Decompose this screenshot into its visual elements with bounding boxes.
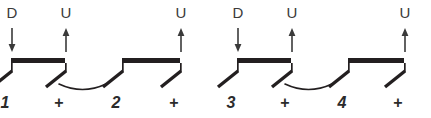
up-arrow [63,28,70,52]
beam [237,58,291,63]
strumming-pattern-figure: DUUDUU 1+2+3+4+ [0,0,431,118]
slash-note [385,63,405,87]
slash-note-group [0,63,405,87]
beam [348,58,404,63]
down-arrow [235,28,242,52]
slash-note [218,63,238,87]
slash-note [161,63,181,87]
stroke-label-down: D [7,4,18,21]
count-label-number: 2 [111,94,121,111]
slash-note [46,63,66,87]
count-label-number: 1 [1,94,10,111]
beam [11,58,65,63]
down-arrow [9,28,16,52]
slash-note [0,63,12,87]
tie-curve-group [59,84,332,90]
stroke-label-down: D [233,4,244,21]
count-label-and: + [280,94,289,111]
count-label-and: + [54,94,63,111]
stroke-arrow-group [9,28,409,52]
count-label-and: + [393,94,402,111]
beam [122,58,180,63]
slash-note [272,63,292,87]
up-arrow [289,28,296,52]
beam-group [11,58,404,63]
stroke-label-up: U [287,4,298,21]
count-label-number: 4 [337,94,347,111]
stroke-label-group: DUUDUU [7,4,411,21]
stroke-label-up: U [400,4,411,21]
stroke-label-up: U [61,4,72,21]
tie-curve [59,84,106,90]
stroke-label-up: U [176,4,187,21]
up-arrow [178,28,185,52]
up-arrow [402,28,409,52]
slash-note [103,63,123,87]
count-label-and: + [169,94,178,111]
tie-curve [285,84,332,90]
slash-note [329,63,349,87]
count-label-group: 1+2+3+4+ [1,94,403,111]
count-label-number: 3 [227,94,236,111]
notation-canvas: DUUDUU 1+2+3+4+ [0,0,431,118]
